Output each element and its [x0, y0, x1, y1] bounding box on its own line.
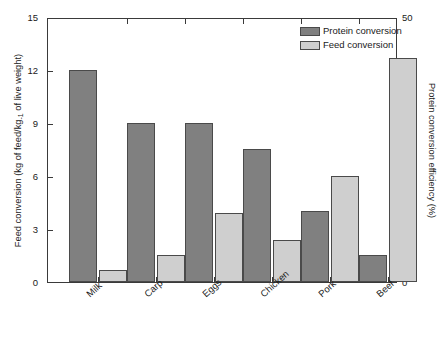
tick-left-9	[48, 124, 53, 125]
legend-swatch-protein-icon	[300, 27, 320, 36]
legend-item-protein-conversion: Protein conversion	[300, 25, 402, 37]
bar-pork-protein	[301, 211, 329, 282]
y-tick-label-left-0: 0	[8, 278, 38, 288]
chart-figure: Feed conversion (kg of feed/kg-1 of live…	[0, 0, 441, 337]
tick-left-6	[48, 177, 53, 178]
bar-beef-feed	[389, 58, 417, 282]
bar-milk-feed	[99, 270, 127, 282]
tick-top-1	[127, 19, 128, 24]
y-axis-left-title-tail: of live weight)	[13, 54, 23, 113]
bar-milk-protein	[69, 70, 97, 282]
tick-top-5	[359, 19, 360, 24]
y-axis-left-title: Feed conversion (kg of feed/kg-1 of live…	[13, 18, 27, 283]
legend-swatch-feed-icon	[300, 41, 320, 50]
legend-label-feed: Feed conversion	[323, 39, 393, 51]
y-tick-label-left-15: 15	[8, 13, 38, 23]
bar-eggs-protein	[185, 123, 213, 282]
tick-left-3	[48, 230, 53, 231]
tick-left-12	[48, 71, 53, 72]
y-tick-label-left-12: 12	[8, 66, 38, 76]
y-tick-label-left-3: 3	[8, 225, 38, 235]
bar-chicken-protein	[243, 149, 271, 282]
bar-eggs-feed	[215, 213, 243, 282]
y-tick-label-left-9: 9	[8, 119, 38, 129]
tick-top-4	[301, 19, 302, 24]
bar-carp-feed	[157, 255, 185, 282]
chart-legend: Protein conversion Feed conversion	[300, 25, 402, 53]
y-tick-label-left-6: 6	[8, 172, 38, 182]
plot-area	[47, 18, 397, 283]
tick-top-2	[185, 19, 186, 24]
bar-carp-protein	[127, 123, 155, 282]
tick-top-3	[243, 19, 244, 24]
legend-item-feed-conversion: Feed conversion	[300, 39, 402, 51]
bar-pork-feed	[331, 176, 359, 282]
y-tick-label-right-50: 50	[402, 13, 432, 23]
legend-label-protein: Protein conversion	[323, 25, 402, 37]
bar-beef-protein	[359, 255, 387, 282]
y-axis-right-title: Protein conversion efficiency (%)	[423, 18, 437, 283]
